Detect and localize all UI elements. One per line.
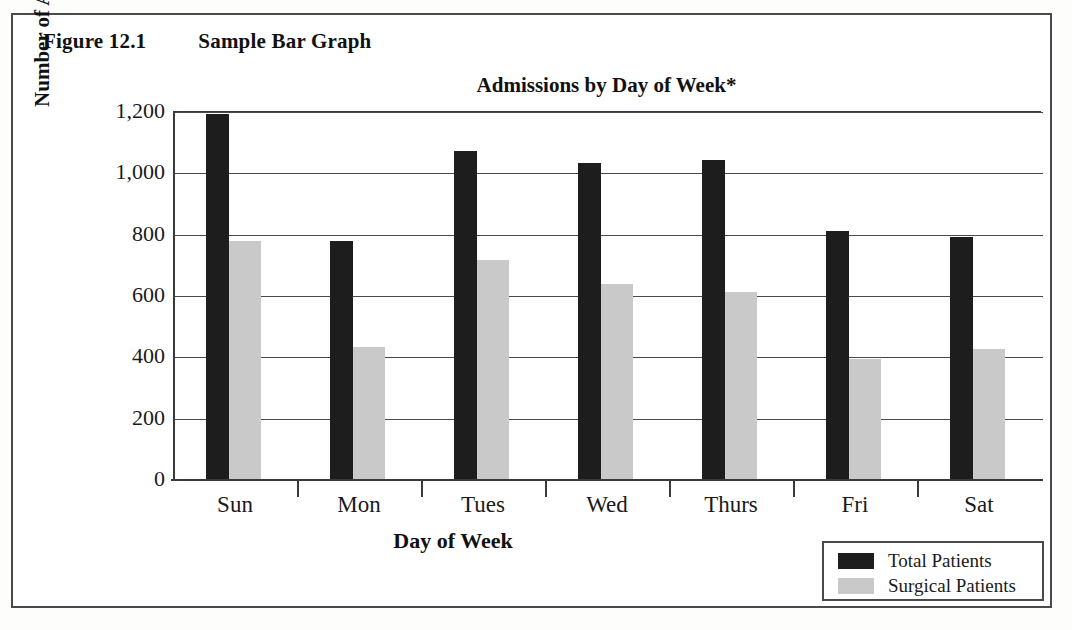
y-axis-tick-label: 600 [73, 284, 165, 306]
x-axis-tick-label: Sat [917, 492, 1041, 518]
bar-group [795, 111, 919, 479]
x-axis-tick-label: Sun [173, 492, 297, 518]
x-axis-tick-label: Wed [545, 492, 669, 518]
legend-label: Total Patients [888, 550, 992, 572]
y-axis-tick-label: 200 [73, 407, 165, 429]
y-axis-tick-label: 1,200 [73, 100, 165, 122]
y-axis-title: Number of Admissions [30, 0, 60, 165]
legend-swatch-icon [838, 578, 874, 594]
y-axis-tick-label: 1,000 [73, 161, 165, 183]
x-axis-tick-label: Mon [297, 492, 421, 518]
bar [206, 114, 229, 479]
chart-title: Admissions by Day of Week* [13, 73, 1050, 98]
x-axis-tick-label: Fri [793, 492, 917, 518]
bar-group [175, 111, 299, 479]
bar [826, 231, 849, 479]
bar [353, 347, 385, 479]
bar [973, 349, 1005, 479]
legend-label: Surgical Patients [888, 575, 1016, 597]
y-axis-tick-labels: 1,2001,0008006004002000 [65, 15, 165, 606]
figure-caption-title: Sample Bar Graph [198, 29, 371, 54]
y-axis-tick-label: 400 [73, 345, 165, 367]
y-axis-tick-label: 800 [73, 223, 165, 245]
bar-group [671, 111, 795, 479]
bar [578, 163, 601, 479]
bar [702, 160, 725, 479]
plot-area [173, 111, 1041, 479]
bar-group [547, 111, 671, 479]
bar [454, 151, 477, 479]
x-axis-tick-label: Tues [421, 492, 545, 518]
bar [725, 292, 757, 479]
y-axis-tick-label: 0 [73, 468, 165, 490]
bar [601, 284, 633, 479]
legend-swatch-icon [838, 553, 874, 569]
x-axis-title: Day of Week [173, 528, 733, 554]
figure-page: Figure 12.1 Sample Bar Graph Admissions … [0, 0, 1072, 630]
legend-item: Total Patients [824, 548, 1042, 573]
bar [950, 237, 973, 479]
bar-group [423, 111, 547, 479]
bar [229, 241, 261, 479]
bar [330, 241, 353, 479]
bar [849, 359, 881, 479]
x-axis-tick-label: Thurs [669, 492, 793, 518]
chart-legend: Total PatientsSurgical Patients [822, 541, 1044, 601]
bar-group [299, 111, 423, 479]
figure-frame: Figure 12.1 Sample Bar Graph Admissions … [11, 13, 1052, 608]
legend-item: Surgical Patients [824, 573, 1042, 598]
bar-group [919, 111, 1043, 479]
x-axis-line [171, 479, 1043, 481]
bar [477, 260, 509, 479]
